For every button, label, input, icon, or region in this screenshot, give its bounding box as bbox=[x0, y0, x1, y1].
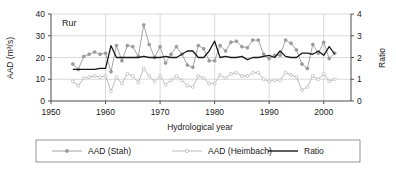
data-point bbox=[93, 51, 96, 54]
data-point bbox=[71, 63, 74, 66]
tick-label-x: 1960 bbox=[96, 107, 115, 117]
data-point bbox=[164, 61, 167, 64]
data-point bbox=[246, 74, 249, 77]
data-point bbox=[328, 57, 331, 60]
data-point bbox=[295, 76, 298, 79]
data-point bbox=[251, 71, 254, 74]
data-point bbox=[284, 71, 287, 74]
data-point bbox=[202, 77, 205, 80]
chart-figure: 01020304001234195019601970198019902000Ru… bbox=[0, 0, 396, 173]
legend-label-0: AAD (Stah) bbox=[88, 146, 131, 156]
data-point bbox=[262, 78, 265, 81]
data-point bbox=[99, 53, 102, 56]
data-point bbox=[110, 70, 113, 73]
tick-label-x: 1950 bbox=[42, 107, 61, 117]
data-point bbox=[290, 42, 293, 45]
tick-label-y-left: 0 bbox=[40, 96, 45, 106]
tick-label-x: 2000 bbox=[314, 107, 333, 117]
data-point bbox=[311, 43, 314, 46]
data-point bbox=[246, 46, 249, 49]
legend-swatch-marker bbox=[65, 149, 68, 152]
data-point bbox=[126, 44, 129, 47]
data-point bbox=[148, 43, 151, 46]
data-point bbox=[71, 80, 74, 83]
data-point bbox=[186, 84, 189, 87]
data-point bbox=[317, 78, 320, 81]
data-point bbox=[251, 39, 254, 42]
data-point bbox=[77, 84, 80, 87]
tick-label-x: 1980 bbox=[205, 107, 224, 117]
data-point bbox=[290, 73, 293, 76]
data-point bbox=[175, 74, 178, 77]
data-point bbox=[208, 82, 211, 85]
data-point bbox=[175, 45, 178, 48]
tick-label-y-left: 10 bbox=[36, 74, 46, 84]
data-point bbox=[131, 45, 134, 48]
data-point bbox=[224, 77, 227, 80]
data-point bbox=[82, 77, 85, 80]
data-point bbox=[159, 74, 162, 77]
data-point bbox=[219, 44, 222, 47]
data-point bbox=[268, 80, 271, 83]
data-point bbox=[224, 49, 227, 52]
tick-label-y-right: 3 bbox=[357, 31, 362, 41]
data-point bbox=[213, 59, 216, 62]
data-point bbox=[170, 79, 173, 82]
data-point bbox=[115, 44, 118, 47]
data-point bbox=[197, 44, 200, 47]
data-point bbox=[197, 74, 200, 77]
data-point bbox=[115, 76, 118, 79]
legend-label-2: Ratio bbox=[304, 146, 324, 156]
data-point bbox=[311, 74, 314, 77]
data-point bbox=[99, 76, 102, 79]
data-point bbox=[120, 82, 123, 85]
data-point bbox=[279, 79, 282, 82]
data-point bbox=[191, 66, 194, 69]
data-point bbox=[82, 55, 85, 58]
data-point bbox=[295, 48, 298, 51]
data-point bbox=[235, 71, 238, 74]
data-point bbox=[164, 83, 167, 86]
data-point bbox=[306, 85, 309, 88]
data-point bbox=[153, 80, 156, 83]
data-point bbox=[88, 53, 91, 56]
data-point bbox=[268, 57, 271, 60]
data-point bbox=[240, 45, 243, 48]
tick-label-x: 1990 bbox=[260, 107, 279, 117]
y-axis-left-title: AAD (m³/s) bbox=[5, 37, 15, 79]
data-point bbox=[142, 67, 145, 70]
data-point bbox=[131, 74, 134, 77]
data-point bbox=[333, 78, 336, 81]
data-point bbox=[170, 53, 173, 56]
tick-label-y-left: 20 bbox=[36, 53, 46, 63]
data-point bbox=[322, 72, 325, 75]
data-point bbox=[279, 54, 282, 57]
tick-label-x: 1970 bbox=[151, 107, 170, 117]
data-point bbox=[104, 52, 107, 55]
data-point bbox=[240, 74, 243, 77]
data-point bbox=[180, 79, 183, 82]
data-point bbox=[273, 79, 276, 82]
data-point bbox=[110, 90, 113, 93]
tick-label-y-right: 1 bbox=[357, 74, 362, 84]
legend-label-1: AAD (Heimbach) bbox=[208, 146, 272, 156]
data-point bbox=[148, 74, 151, 77]
data-point bbox=[213, 82, 216, 85]
data-point bbox=[328, 80, 331, 83]
data-point bbox=[186, 64, 189, 67]
data-point bbox=[230, 41, 233, 44]
tick-label-y-right: 4 bbox=[357, 9, 362, 19]
data-point bbox=[137, 81, 140, 84]
data-point bbox=[142, 23, 145, 26]
data-point bbox=[284, 39, 287, 42]
data-point bbox=[191, 85, 194, 88]
data-point bbox=[202, 47, 205, 50]
x-axis-title: Hydrological year bbox=[167, 122, 233, 132]
data-point bbox=[262, 53, 265, 56]
data-point bbox=[93, 74, 96, 77]
data-point bbox=[104, 74, 107, 77]
data-point bbox=[257, 39, 260, 42]
panel-annotation: Rur bbox=[62, 18, 77, 28]
data-point bbox=[126, 72, 129, 75]
data-point bbox=[230, 72, 233, 75]
